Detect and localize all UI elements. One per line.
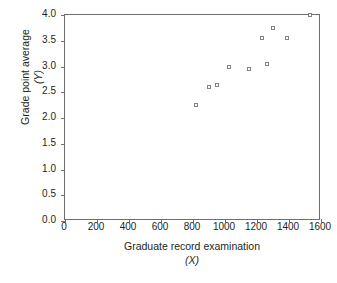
x-axis-tick-label: 1600 <box>300 222 337 232</box>
x-axis-title-main: Graduate record examination <box>124 240 260 252</box>
data-point <box>227 65 231 69</box>
x-axis-tick <box>225 219 226 223</box>
scatter-plot-figure: 0.00.51.01.52.02.53.03.54.0 020040060080… <box>0 0 337 283</box>
x-axis-tick <box>65 219 66 223</box>
y-axis-title-main: Grade point average <box>19 29 31 125</box>
data-point <box>207 85 211 89</box>
data-point <box>215 83 219 87</box>
x-axis-title: Graduate record examination (X) <box>64 239 320 267</box>
y-axis-tick <box>61 15 65 16</box>
y-axis-tick <box>61 170 65 171</box>
x-axis-tick <box>193 219 194 223</box>
y-axis-title-sub: (Y) <box>32 70 44 84</box>
data-point <box>260 36 264 40</box>
data-point <box>194 103 198 107</box>
x-axis-tick <box>97 219 98 223</box>
data-point <box>265 62 269 66</box>
y-axis-tick <box>61 195 65 196</box>
y-axis-tick <box>61 67 65 68</box>
y-axis-tick <box>61 92 65 93</box>
y-axis-tick <box>61 144 65 145</box>
y-axis-tick-label: 1.0 <box>8 164 56 174</box>
plot-area <box>64 14 320 220</box>
x-axis-tick <box>257 219 258 223</box>
y-axis-tick <box>61 118 65 119</box>
x-axis-tick <box>129 219 130 223</box>
data-point <box>308 13 312 17</box>
data-point <box>271 26 275 30</box>
x-axis-tick <box>289 219 290 223</box>
data-point <box>285 36 289 40</box>
y-axis-tick-label: 0.5 <box>8 189 56 199</box>
data-point <box>247 67 251 71</box>
x-axis-tick <box>321 219 322 223</box>
y-axis-tick <box>61 41 65 42</box>
x-axis-tick <box>161 219 162 223</box>
y-axis-title: Grade point average (Y) <box>19 0 45 162</box>
x-axis-title-sub: (X) <box>185 254 199 266</box>
